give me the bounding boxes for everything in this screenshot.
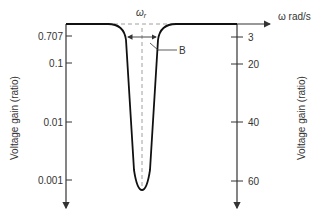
frequency-axis-label: ω rad/s	[278, 11, 311, 22]
right-tick-40: 40	[248, 117, 260, 128]
left-tick-01: 0.1	[49, 58, 63, 69]
left-tick-0707: 0.707	[38, 31, 63, 42]
right-axis-title: Voltage gain (ratio)	[296, 76, 307, 160]
response-curve	[66, 24, 237, 190]
bandwidth-label: B	[179, 45, 186, 56]
left-tick-0001: 0.001	[38, 175, 63, 186]
left-ticks	[66, 36, 72, 180]
right-tick-60: 60	[248, 176, 260, 187]
notch-filter-diagram: B ωr ω rad/s 0.707 0.1 0.01 0.001 3 20 4…	[0, 0, 323, 220]
left-tick-001: 0.01	[44, 117, 64, 128]
right-tick-3: 3	[248, 32, 254, 43]
left-axis-title: Voltage gain (ratio)	[9, 76, 20, 160]
bandwidth-leader	[150, 43, 177, 50]
center-frequency-label: ωr	[136, 7, 147, 19]
right-tick-20: 20	[248, 59, 260, 70]
